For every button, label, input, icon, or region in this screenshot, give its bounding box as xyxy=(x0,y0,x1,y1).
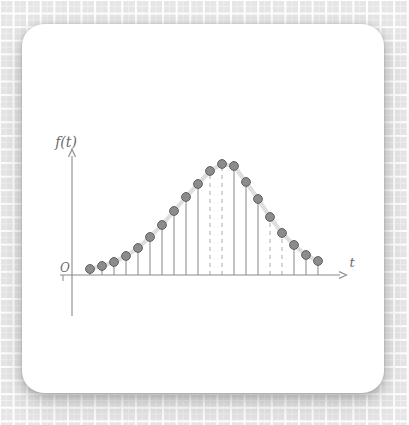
sample-marker xyxy=(134,244,143,253)
sample-marker xyxy=(266,213,275,222)
sample-marker xyxy=(218,160,227,169)
origin-label: O xyxy=(60,261,70,275)
page-background: f(t) t O xyxy=(0,0,409,425)
sample-marker xyxy=(194,180,203,189)
sample-marker xyxy=(158,221,167,230)
sample-marker xyxy=(290,241,299,250)
figure-card: f(t) t O xyxy=(22,24,384,393)
sample-marker xyxy=(242,178,251,187)
sample-marker xyxy=(86,265,95,274)
sample-marker xyxy=(206,167,215,176)
sample-marker xyxy=(314,257,323,266)
sample-marker xyxy=(230,162,239,171)
sample-marker xyxy=(278,229,287,238)
x-axis-label: t xyxy=(349,255,355,270)
sample-marker xyxy=(302,251,311,260)
stem-plot-figure: f(t) t O xyxy=(22,24,384,393)
sample-marker xyxy=(146,233,155,242)
sample-marker xyxy=(110,258,119,267)
sample-marker xyxy=(122,252,131,261)
sample-marker xyxy=(98,262,107,271)
y-axis-label: f(t) xyxy=(54,134,77,150)
sample-marker xyxy=(170,207,179,216)
sample-marker xyxy=(254,195,263,204)
sample-marker xyxy=(182,193,191,202)
